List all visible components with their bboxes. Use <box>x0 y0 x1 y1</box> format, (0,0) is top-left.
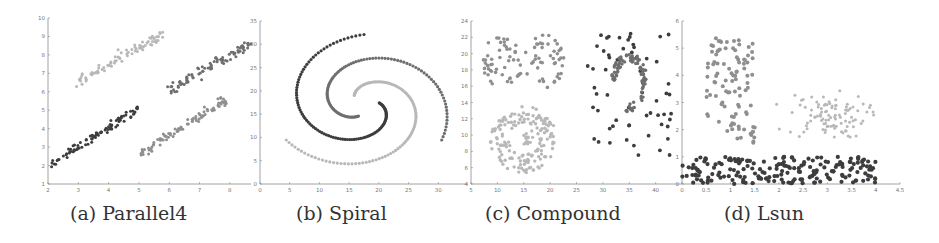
svg-text:6: 6 <box>167 187 171 193</box>
svg-text:4: 4 <box>42 126 46 132</box>
svg-text:15: 15 <box>346 187 353 193</box>
scatter-panel-3: 5101520253035404681012141618202224 <box>461 18 682 193</box>
svg-text:3: 3 <box>42 144 46 150</box>
scatter-panel-1: 234567812345678910 <box>38 15 252 193</box>
svg-text:2: 2 <box>777 187 781 193</box>
svg-text:5: 5 <box>42 107 46 113</box>
svg-text:5: 5 <box>469 187 473 193</box>
svg-text:15: 15 <box>250 111 257 117</box>
svg-text:3: 3 <box>676 100 680 106</box>
caption-lsun: (d) Lsun <box>724 202 804 224</box>
svg-text:2: 2 <box>42 163 46 169</box>
svg-text:4: 4 <box>465 181 469 187</box>
svg-text:10: 10 <box>250 134 257 140</box>
svg-text:25: 25 <box>405 187 412 193</box>
svg-text:35: 35 <box>250 18 257 24</box>
svg-text:4: 4 <box>676 72 680 78</box>
svg-text:25: 25 <box>573 187 580 193</box>
svg-text:5: 5 <box>254 158 258 164</box>
svg-text:18: 18 <box>461 67 468 73</box>
svg-text:30: 30 <box>599 187 606 193</box>
svg-text:20: 20 <box>547 187 554 193</box>
svg-text:4: 4 <box>107 187 111 193</box>
svg-text:4: 4 <box>874 187 878 193</box>
svg-text:8: 8 <box>465 148 469 154</box>
svg-text:0: 0 <box>258 187 262 193</box>
svg-text:15: 15 <box>520 187 527 193</box>
caption-spiral: (b) Spiral <box>296 202 387 224</box>
svg-text:14: 14 <box>461 100 468 106</box>
svg-text:30: 30 <box>435 187 442 193</box>
svg-text:10: 10 <box>494 187 501 193</box>
svg-text:10: 10 <box>461 132 468 138</box>
svg-text:30: 30 <box>250 41 257 47</box>
caption-parallel4: (a) Parallel4 <box>70 202 187 224</box>
svg-text:1: 1 <box>676 154 680 160</box>
svg-text:0.5: 0.5 <box>702 187 711 193</box>
caption-compound: (c) Compound <box>485 202 621 224</box>
svg-text:5: 5 <box>288 187 292 193</box>
svg-text:8: 8 <box>228 187 232 193</box>
svg-text:20: 20 <box>461 51 468 57</box>
svg-text:1: 1 <box>729 187 733 193</box>
svg-text:40: 40 <box>652 187 659 193</box>
svg-text:3.5: 3.5 <box>847 187 856 193</box>
svg-text:7: 7 <box>198 187 202 193</box>
svg-text:10: 10 <box>316 187 323 193</box>
svg-text:20: 20 <box>250 88 257 94</box>
svg-text:0: 0 <box>680 187 684 193</box>
svg-text:1.5: 1.5 <box>750 187 759 193</box>
svg-text:20: 20 <box>375 187 382 193</box>
svg-text:9: 9 <box>42 33 46 39</box>
svg-text:3: 3 <box>77 187 81 193</box>
svg-text:6: 6 <box>42 89 46 95</box>
svg-text:4.5: 4.5 <box>896 187 905 193</box>
svg-text:1: 1 <box>42 181 46 187</box>
scatter-panel-4: 00.511.522.533.544.50123456 <box>676 18 905 193</box>
svg-text:8: 8 <box>42 52 46 58</box>
svg-text:2: 2 <box>676 127 680 133</box>
svg-text:22: 22 <box>461 34 468 40</box>
svg-text:5: 5 <box>137 187 141 193</box>
svg-text:24: 24 <box>461 18 468 24</box>
svg-text:7: 7 <box>42 70 46 76</box>
scatter-panel-2: 05101520253005101520253035 <box>250 18 468 193</box>
svg-text:2.5: 2.5 <box>799 187 808 193</box>
svg-text:5: 5 <box>676 45 680 51</box>
svg-text:12: 12 <box>461 116 468 122</box>
svg-text:0: 0 <box>254 181 258 187</box>
svg-text:6: 6 <box>676 18 680 24</box>
svg-text:6: 6 <box>465 165 469 171</box>
svg-text:2: 2 <box>46 187 50 193</box>
svg-text:0: 0 <box>676 181 680 187</box>
svg-text:3: 3 <box>826 187 830 193</box>
svg-text:16: 16 <box>461 83 468 89</box>
svg-text:10: 10 <box>38 15 45 21</box>
svg-text:35: 35 <box>626 187 633 193</box>
svg-text:25: 25 <box>250 65 257 71</box>
